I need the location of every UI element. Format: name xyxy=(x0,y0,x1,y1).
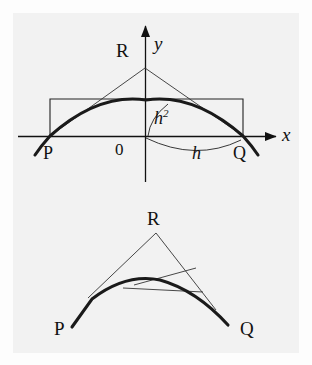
label-p-lower: P xyxy=(54,319,65,338)
secant-detail xyxy=(123,288,203,292)
figure-canvas xyxy=(0,0,312,365)
lower-panel xyxy=(72,233,228,327)
label-x-axis: x xyxy=(282,125,290,144)
label-r-lower: R xyxy=(147,209,160,228)
chord-p-r-detail xyxy=(88,233,156,298)
label-width-h: h xyxy=(192,144,201,162)
label-p-upper: P xyxy=(43,144,53,162)
label-q-lower: Q xyxy=(240,319,254,338)
bounding-rectangle xyxy=(50,99,243,136)
label-height-h-base: h xyxy=(154,108,163,128)
label-origin: 0 xyxy=(115,141,124,158)
arc-detail xyxy=(72,279,228,327)
figure-root: R y x 0 P Q h2 h R P Q xyxy=(0,0,312,365)
label-height-h-exponent: 2 xyxy=(163,107,169,119)
chord-r-q-detail xyxy=(156,233,216,310)
label-height-h-squared: h2 xyxy=(154,108,169,127)
label-y-axis: y xyxy=(154,34,162,53)
label-q-upper: Q xyxy=(233,144,246,162)
label-r-upper: R xyxy=(116,41,129,60)
